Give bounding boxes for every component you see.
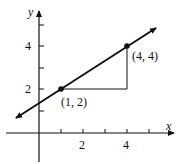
x-axis-label: x bbox=[165, 119, 172, 133]
point-label-4-4: (4, 4) bbox=[132, 49, 158, 63]
y-tick-label-4: 4 bbox=[25, 39, 31, 53]
x-tick-label-4: 4 bbox=[123, 138, 129, 152]
coordinate-plot: 2 4 2 4 x y (1, 2) (4, 4) bbox=[0, 0, 179, 164]
point-1-2 bbox=[58, 86, 64, 92]
y-ticks bbox=[39, 25, 44, 111]
point-label-1-2: (1, 2) bbox=[61, 95, 87, 109]
y-tick-label-2: 2 bbox=[25, 82, 31, 96]
y-axis-label: y bbox=[27, 5, 34, 19]
x-tick-label-2: 2 bbox=[79, 138, 85, 152]
point-4-4 bbox=[124, 43, 130, 49]
